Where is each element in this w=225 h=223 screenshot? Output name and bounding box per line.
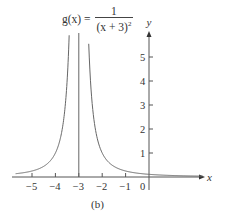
x-tick-label: 0	[140, 181, 145, 192]
x-tick-label: −1	[120, 181, 131, 192]
curve-right-branch	[89, 44, 203, 176]
formula-numerator: 1	[109, 6, 119, 17]
x-axis-label: x	[206, 171, 212, 183]
formula-denominator: (x + 3)2	[95, 17, 134, 33]
y-tick-label: 2	[140, 124, 145, 135]
y-tick-label: 4	[140, 76, 146, 87]
x-tick-label: −2	[96, 181, 107, 192]
formula-denominator-base: (x + 3)	[97, 21, 128, 33]
y-axis-label: y	[146, 16, 152, 28]
curve-left-branch	[16, 35, 70, 173]
y-tick-label: 1	[140, 148, 145, 159]
y-tick-label: 3	[140, 100, 145, 111]
x-tick-label: −5	[26, 181, 37, 192]
function-formula: g(x) = 1 (x + 3)2	[62, 6, 133, 33]
x-axis-arrow-icon	[199, 175, 205, 180]
formula-exponent: 2	[128, 20, 132, 28]
formula-fraction: 1 (x + 3)2	[95, 6, 134, 33]
y-axis-arrow-icon	[147, 31, 152, 37]
figure-caption: (b)	[91, 198, 104, 210]
formula-lhs: g(x) =	[62, 13, 91, 25]
x-tick-label: −3	[73, 181, 84, 192]
function-graph: xy−5−4−3−2−1012345	[0, 0, 225, 223]
x-tick-label: −4	[49, 181, 61, 192]
y-tick-label: 5	[140, 52, 145, 63]
